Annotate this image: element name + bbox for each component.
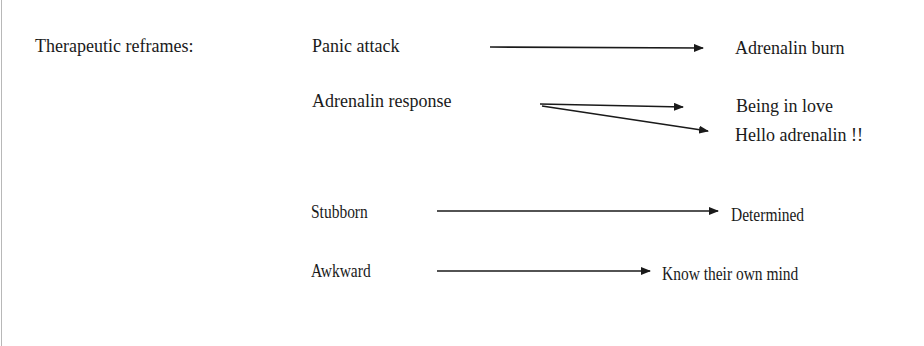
arrow-panic-to-burn (490, 47, 703, 48)
arrows-layer (0, 0, 924, 346)
arrow-response-to-love (540, 104, 683, 107)
arrow-response-to-hello (542, 106, 708, 131)
